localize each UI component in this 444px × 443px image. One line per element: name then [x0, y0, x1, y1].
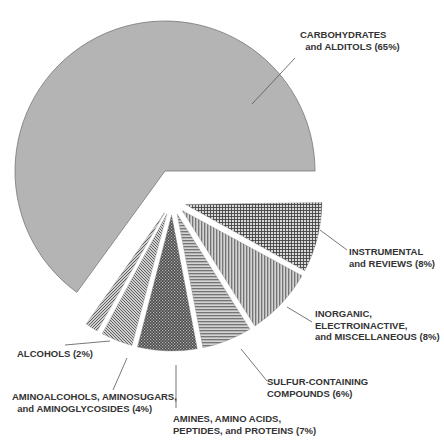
leader-line	[241, 349, 267, 381]
label-amines: AMINES, AMINO ACIDS, PEPTIDES, and PROTE…	[173, 413, 316, 436]
pie-chart	[0, 0, 444, 443]
label-alcohols: ALCOHOLS (2%)	[17, 348, 93, 360]
label-instrumental: INSTRUMENTAL and REVIEWS (8%)	[349, 246, 435, 269]
leader-line	[287, 307, 312, 322]
leader-line	[65, 341, 110, 345]
label-sulfur: SULFUR-CONTAINING COMPOUNDS (6%)	[267, 376, 368, 399]
label-inorganic: INORGANIC, ELECTROINACTIVE, and MISCELLA…	[315, 308, 440, 343]
label-aminoalcohols: AMINOALCOHOLS, AMINOSUGARS, and AMINOGLY…	[12, 391, 177, 414]
leader-line	[320, 230, 347, 250]
label-carbohydrates: CARBOHYDRATES and ALDITOLS (65%)	[300, 29, 400, 52]
pie-slices	[15, 21, 322, 351]
leader-line	[113, 358, 127, 390]
